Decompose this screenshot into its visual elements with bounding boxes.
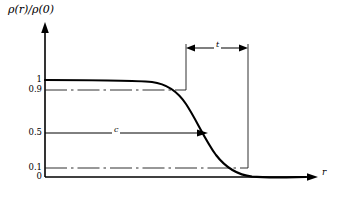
y-axis-title: ρ(r)/ρ(0) xyxy=(8,4,54,15)
t-arrowhead-right xyxy=(239,45,248,52)
y-tick-label-0-5: 0.5 xyxy=(12,128,42,137)
y-tick-label-0-9: 0.9 xyxy=(12,85,42,94)
density-curve xyxy=(45,80,306,177)
annotation-label-c: c xyxy=(112,126,120,134)
x-axis-arrowhead xyxy=(307,173,318,181)
annotation-label-t: t xyxy=(214,41,221,49)
axes-group xyxy=(41,22,318,181)
y-tick-label-0: 0 xyxy=(12,172,42,181)
y-tick-label-1: 1 xyxy=(12,75,42,84)
thickness-drop-lines xyxy=(186,44,248,168)
x-axis-title: r xyxy=(322,168,326,177)
guide-lines-group xyxy=(45,80,248,168)
plot-svg xyxy=(0,0,340,205)
figure-canvas: ρ(r)/ρ(0) 1 0.9 0.5 0.1 0 r c t xyxy=(0,0,340,205)
half-density-radius-arrow xyxy=(45,129,208,136)
y-axis-arrowhead xyxy=(41,22,49,33)
t-arrowhead-left xyxy=(186,45,195,52)
